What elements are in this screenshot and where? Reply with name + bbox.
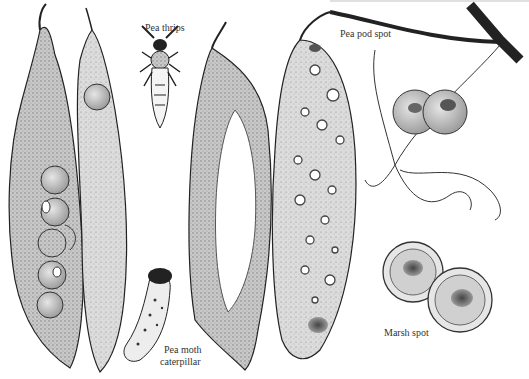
damaged-pea-pod [189,22,271,370]
label-marsh-spot: Marsh spot [384,327,429,338]
label-pea-thrips: Pea thrips [145,22,185,33]
label-pea-moth-line2: caterpillar [160,356,201,367]
open-pea-pod [9,4,126,372]
marsh-spot-pea-halves [383,242,492,332]
label-pea-pod-spot: Pea pod spot [340,28,391,39]
label-pea-moth-line1: Pea moth [164,344,202,355]
pea-thrips-insect [140,26,180,128]
pea-pests-illustration: Pea thrips Pea moth caterpillar Pea pod … [0,0,529,379]
pea-pod-spot-pod [272,12,356,359]
infected-peas-pair [393,90,467,134]
illustration-drawing [0,0,529,379]
